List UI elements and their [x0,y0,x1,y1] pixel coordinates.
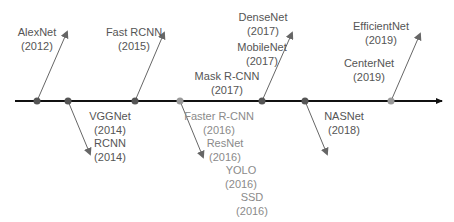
model-name: Mask R-CNN [195,69,260,83]
model-name: YOLO [225,163,257,177]
model-name: MobileNet [237,40,287,54]
model-label: DenseNet(2017) [239,10,288,38]
model-name: EfficientNet [353,19,409,33]
model-name: NASNet [324,109,364,123]
model-year: (2012) [18,39,57,53]
model-label: MobileNet(2017) [237,40,287,68]
model-name: CenterNet [344,56,394,70]
model-name: RCNN [94,136,126,150]
model-label: EfficientNet(2019) [353,19,409,47]
model-year: (2017) [237,54,287,68]
model-year: (2017) [239,24,288,38]
model-year: (2019) [353,33,409,47]
model-label: NASNet(2018) [324,109,364,137]
model-year: (2015) [106,39,162,53]
model-label: SSD(2016) [236,190,268,218]
model-year: (2016) [207,150,244,164]
model-name: SSD [236,190,268,204]
model-year: (2014) [94,150,126,164]
timeline-dot [132,98,139,105]
model-year: (2016) [184,123,254,137]
model-label: Faster R-CNN(2016) [184,109,254,137]
timeline-dot [302,98,309,105]
model-label: CenterNet(2019) [344,56,394,84]
model-label: YOLO(2016) [225,163,257,191]
model-name: DenseNet [239,10,288,24]
model-label: ResNet(2016) [207,136,244,164]
model-year: (2016) [225,177,257,191]
model-year: (2016) [236,204,268,218]
timeline-dot [65,98,72,105]
timeline-dot [177,98,184,105]
model-year: (2017) [195,83,260,97]
model-label: Mask R-CNN(2017) [195,69,260,97]
timeline-dot [388,98,395,105]
timeline-dot [34,98,41,105]
model-label: Fast RCNN(2015) [106,25,162,53]
model-year: (2014) [89,123,131,137]
timeline-arrow-down [68,101,90,154]
timeline-dot [259,98,266,105]
model-name: Fast RCNN [106,25,162,39]
model-label: RCNN(2014) [94,136,126,164]
model-name: VGGNet [89,109,131,123]
model-name: AlexNet [18,25,57,39]
model-name: ResNet [207,136,244,150]
model-label: AlexNet(2012) [18,25,57,53]
model-year: (2019) [344,70,394,84]
model-name: Faster R-CNN [184,109,254,123]
timeline-diagram: AlexNet(2012)Fast RCNN(2015)DenseNet(201… [0,0,454,222]
model-year: (2018) [324,123,364,137]
model-label: VGGNet(2014) [89,109,131,137]
